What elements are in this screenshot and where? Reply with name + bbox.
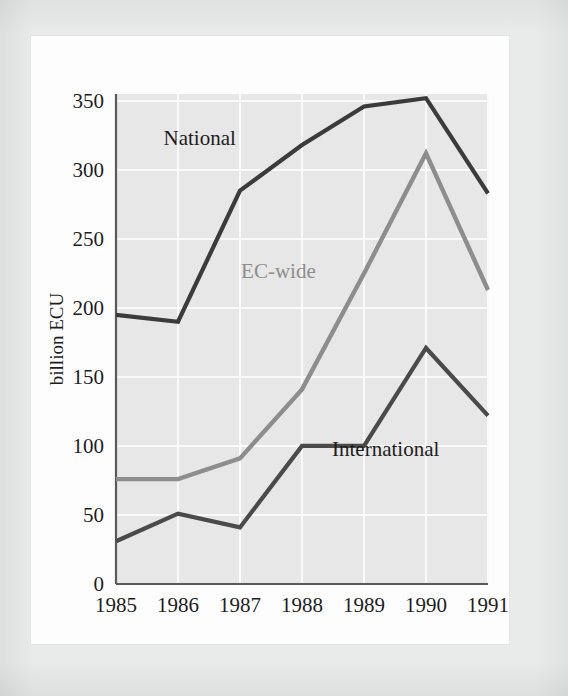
line-chart: 050100150200250300350 198519861987198819… (31, 36, 509, 644)
x-tick-label-1990: 1990 (405, 593, 447, 617)
series-label-international: International (332, 437, 439, 461)
y-axis-tick-labels: 050100150200250300350 (73, 89, 105, 596)
series-label-national: National (164, 126, 236, 150)
figure-root: 050100150200250300350 198519861987198819… (0, 0, 568, 696)
x-tick-label-1991: 1991 (467, 593, 509, 617)
y-axis-title: billion ECU (46, 293, 67, 386)
y-tick-label-100: 100 (73, 434, 105, 458)
series-label-ec-wide: EC-wide (241, 259, 316, 283)
x-axis-tick-labels: 1985198619871988198919901991 (95, 593, 509, 617)
y-tick-label-150: 150 (73, 365, 105, 389)
y-tick-label-300: 300 (73, 158, 105, 182)
y-tick-label-250: 250 (73, 227, 105, 251)
x-tick-label-1987: 1987 (219, 593, 261, 617)
x-tick-label-1989: 1989 (343, 593, 385, 617)
y-tick-label-50: 50 (83, 503, 104, 527)
x-tick-label-1985: 1985 (95, 593, 137, 617)
x-tick-label-1988: 1988 (281, 593, 323, 617)
figure-page: 050100150200250300350 198519861987198819… (31, 36, 509, 644)
y-tick-label-350: 350 (73, 89, 105, 113)
x-tick-label-1986: 1986 (157, 593, 199, 617)
y-tick-label-200: 200 (73, 296, 105, 320)
chart-plot-area: 050100150200250300350 198519861987198819… (31, 36, 509, 644)
